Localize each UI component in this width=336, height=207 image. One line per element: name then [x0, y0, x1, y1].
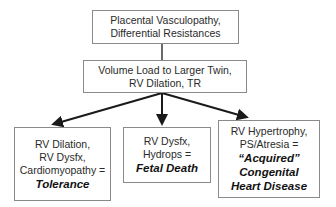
node-outcome: Fetal Death — [136, 161, 198, 175]
node-placental-vasculopathy: Placental Vasculopathy, Differential Res… — [92, 10, 239, 44]
node-text: PS/Atresia = — [240, 138, 299, 151]
node-text: RV Dilation, TR — [129, 77, 201, 90]
node-text: Volume Load to Larger Twin, — [98, 64, 231, 77]
node-fetal-death: RV Dysfx, Hydrops = Fetal Death — [123, 127, 211, 183]
node-text: Cardiomyopathy = — [20, 164, 106, 177]
arrow-to-left — [54, 93, 162, 124]
node-text: Placental Vasculopathy, — [110, 14, 221, 27]
arrow-to-right — [162, 93, 246, 117]
node-outcome: Heart Disease — [231, 179, 307, 193]
node-text: RV Dysfx, — [144, 135, 190, 148]
node-text: Differential Resistances — [110, 27, 220, 40]
node-acquired-chd: RV Hypertrophy, PS/Atresia = “Acquired” … — [218, 120, 320, 198]
node-text: RV Dysfx, — [39, 151, 85, 164]
node-text: RV Dilation, — [35, 138, 90, 151]
node-volume-load: Volume Load to Larger Twin, RV Dilation,… — [83, 60, 247, 93]
node-outcome: “Acquired” — [238, 151, 299, 165]
node-outcome: Tolerance — [36, 177, 90, 191]
node-text: RV Hypertrophy, — [231, 125, 308, 138]
node-tolerance: RV Dilation, RV Dysfx, Cardiomyopathy = … — [14, 127, 111, 201]
node-outcome: Congenital — [239, 165, 298, 179]
node-text: Hydrops = — [143, 148, 191, 161]
